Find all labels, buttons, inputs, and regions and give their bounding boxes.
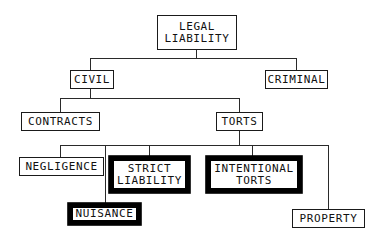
node-intentional-torts-line1: INTENTIONAL — [214, 163, 293, 175]
connector-bus-level1 — [90, 58, 297, 59]
connector-to-civil — [90, 58, 91, 70]
connector-to-intentional-torts — [252, 145, 253, 156]
node-legal-liability-line2: LIABILITY — [164, 33, 229, 45]
node-property[interactable]: PROPERTY — [292, 209, 365, 228]
node-contracts[interactable]: CONTRACTS — [21, 112, 100, 131]
node-property-label: PROPERTY — [300, 213, 358, 225]
node-strict-liability[interactable]: STRICT LIABILITY — [109, 156, 190, 193]
node-criminal[interactable]: CRIMINAL — [265, 70, 328, 89]
node-intentional-torts[interactable]: INTENTIONAL TORTS — [206, 156, 302, 193]
connector-to-contracts — [60, 98, 61, 112]
node-nuisance[interactable]: NUISANCE — [68, 203, 141, 225]
connector-to-torts — [239, 98, 240, 112]
connector-to-property — [328, 145, 329, 209]
node-legal-liability[interactable]: LEGAL LIABILITY — [157, 15, 237, 50]
node-intentional-torts-line2: TORTS — [236, 175, 272, 187]
connector-torts-stem — [239, 130, 240, 146]
node-civil-label: CIVIL — [74, 74, 110, 86]
node-strict-liability-line1: STRICT — [128, 163, 171, 175]
node-negligence[interactable]: NEGLIGENCE — [19, 157, 104, 176]
node-legal-liability-line1: LEGAL — [179, 21, 215, 33]
connector-to-nuisance — [105, 145, 106, 204]
legal-liability-diagram: LEGAL LIABILITY CIVIL CRIMINAL CONTRACTS… — [0, 0, 381, 241]
node-negligence-label: NEGLIGENCE — [25, 161, 97, 173]
node-torts[interactable]: TORTS — [216, 112, 263, 131]
node-strict-liability-line2: LIABILITY — [117, 175, 182, 187]
connector-to-strict-liability — [149, 145, 150, 156]
connector-bus-level2 — [60, 98, 240, 99]
node-nuisance-label: NUISANCE — [76, 208, 134, 220]
node-contracts-label: CONTRACTS — [28, 116, 93, 128]
connector-to-criminal — [296, 58, 297, 70]
connector-to-negligence — [60, 145, 61, 157]
node-criminal-label: CRIMINAL — [268, 74, 326, 86]
node-civil[interactable]: CIVIL — [70, 70, 114, 89]
node-torts-label: TORTS — [221, 116, 257, 128]
connector-bus-level3 — [60, 145, 329, 146]
